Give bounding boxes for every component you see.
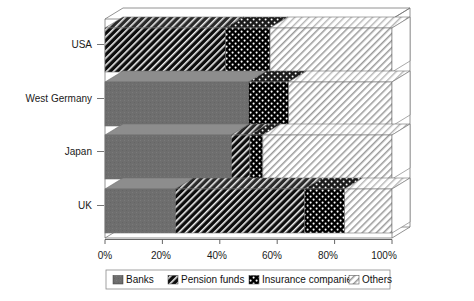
legend-label-insurance-companies: Insurance companies <box>262 274 357 285</box>
bar-group <box>105 17 410 72</box>
legend: Banks Pension funds Insurance companies … <box>106 270 392 289</box>
bar-segment <box>249 82 289 126</box>
bar-segment <box>231 135 250 179</box>
bar-group <box>105 71 410 126</box>
bar-segment <box>105 82 249 126</box>
legend-label-pension-funds: Pension funds <box>181 274 244 285</box>
legend-swatch-others <box>349 276 359 285</box>
bar-group <box>105 124 410 179</box>
xtick-label-60: 60% <box>262 250 282 261</box>
bar-segment <box>304 189 344 233</box>
xtick-label-20: 20% <box>151 250 171 261</box>
bar-segment-top <box>270 17 410 28</box>
bar-segment <box>175 189 304 233</box>
xtick-label-80: 80% <box>318 250 338 261</box>
bar-segment-top <box>289 71 410 82</box>
legend-label-others: Others <box>362 274 392 285</box>
bar-segment <box>345 189 392 233</box>
x-axis-tick-labels: 0% 20% 40% 60% 80% 100% <box>98 250 397 261</box>
bar-segment-top <box>175 178 322 189</box>
category-label-west_germany: West Germany <box>26 93 93 104</box>
chart-svg: USAWest GermanyJapanUK 0% 20% 40% 60% 80… <box>0 0 474 301</box>
legend-swatch-pension-funds <box>168 276 178 285</box>
bar-segment <box>263 135 392 179</box>
bar-segment-top <box>105 71 267 82</box>
bar-segment <box>105 135 231 179</box>
legend-swatch-insurance-companies <box>249 276 259 285</box>
bars-layer <box>105 17 410 233</box>
bar-segment-top <box>105 124 249 135</box>
bar-segment <box>270 28 392 72</box>
category-label-japan: Japan <box>65 146 92 157</box>
category-label-usa: USA <box>71 39 92 50</box>
bar-segment <box>105 189 175 233</box>
legend-swatch-banks <box>113 276 123 285</box>
x-axis-ticks <box>105 240 392 245</box>
bar-group <box>105 178 410 233</box>
xtick-label-40: 40% <box>207 250 227 261</box>
bar-segment <box>250 135 263 179</box>
stacked-bar-chart: USAWest GermanyJapanUK 0% 20% 40% 60% 80… <box>0 0 474 301</box>
category-axis-labels: USAWest GermanyJapanUK <box>26 39 105 211</box>
bar-segment-top <box>263 124 410 135</box>
xtick-label-0: 0% <box>98 250 113 261</box>
x-axis <box>105 240 392 245</box>
legend-label-banks: Banks <box>126 274 154 285</box>
bar-segment <box>289 82 392 126</box>
bar-segment <box>226 28 270 72</box>
bar-segment <box>105 28 226 72</box>
xtick-label-100: 100% <box>371 250 397 261</box>
bar-segment-top <box>105 17 244 28</box>
category-label-uk: UK <box>78 200 92 211</box>
